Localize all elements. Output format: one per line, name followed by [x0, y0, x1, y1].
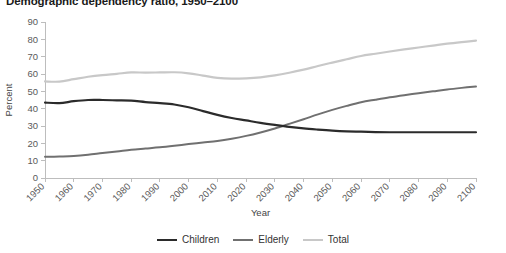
x-tick-label: 1960 [52, 181, 75, 204]
x-axis-title: Year [251, 207, 270, 218]
y-axis-title: Percent [3, 83, 14, 116]
x-tick-label: 2100 [455, 181, 478, 204]
y-tick-label: 40 [27, 103, 38, 114]
legend-item-total[interactable]: Total [303, 234, 349, 245]
y-tick-label: 60 [27, 68, 38, 79]
series-line-total [45, 41, 476, 82]
y-tick-label: 70 [27, 51, 38, 62]
y-tick-label: 20 [27, 138, 38, 149]
x-tick-label: 1950 [24, 181, 47, 204]
legend-label: Elderly [258, 234, 289, 245]
x-tick-label: 2000 [167, 181, 190, 204]
legend-swatch-total-icon [303, 239, 323, 241]
series-layer [45, 41, 476, 157]
x-tick-label: 2010 [196, 181, 219, 204]
y-tick-label: 30 [27, 120, 38, 131]
chart-legend: ChildrenElderlyTotal [0, 234, 506, 245]
x-tick-label: 2080 [397, 181, 420, 204]
y-tick-label: 50 [27, 86, 38, 97]
y-tick-label: 90 [27, 16, 38, 27]
y-axis: 0102030405060708090 [27, 16, 45, 183]
legend-label: Children [182, 234, 219, 245]
legend-item-elderly[interactable]: Elderly [233, 234, 289, 245]
x-tick-label: 2090 [426, 181, 449, 204]
legend-item-children[interactable]: Children [157, 234, 219, 245]
x-tick-label: 2020 [225, 181, 248, 204]
x-tick-label: 1980 [110, 181, 133, 204]
demographic-dependency-ratio-chart: Demographic dependency ratio, 1950–2100 … [0, 0, 506, 253]
x-axis: 1950196019701980199020002010202020302040… [24, 178, 478, 203]
x-tick-label: 2030 [254, 181, 277, 204]
x-tick-label: 1990 [139, 181, 162, 204]
legend-swatch-elderly-icon [233, 239, 253, 241]
y-tick-label: 80 [27, 34, 38, 45]
plot-area: 0102030405060708090 19501960197019801990… [0, 0, 506, 253]
x-tick-label: 2070 [368, 181, 391, 204]
series-line-elderly [45, 86, 476, 156]
y-tick-label: 10 [27, 155, 38, 166]
x-tick-label: 2050 [311, 181, 334, 204]
x-tick-label: 1970 [81, 181, 104, 204]
x-tick-label: 2040 [282, 181, 305, 204]
legend-label: Total [328, 234, 349, 245]
legend-swatch-children-icon [157, 239, 177, 241]
series-line-children [45, 100, 476, 132]
x-tick-label: 2060 [340, 181, 363, 204]
